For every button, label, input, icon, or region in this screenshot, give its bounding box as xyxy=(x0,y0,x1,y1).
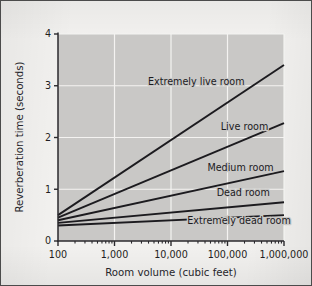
y-axis-tick-labels: 01234 xyxy=(45,28,51,246)
series-label-live-room: Live room xyxy=(221,121,268,132)
y-tick-label-0: 0 xyxy=(45,235,51,246)
series-label-extremely-live-room: Extremely live room xyxy=(148,76,245,87)
x-tick-label-100000: 100,000 xyxy=(208,249,248,260)
series-label-extremely-dead-room: Extremely dead room xyxy=(187,215,291,226)
y-tick-label-4: 4 xyxy=(45,28,51,39)
y-tick-label-2: 2 xyxy=(45,132,51,143)
x-tick-label-10000: 10,000 xyxy=(154,249,188,260)
x-axis-title: Room volume (cubic feet) xyxy=(105,267,237,278)
x-tick-label-1000000: 1,000,000 xyxy=(260,249,309,260)
y-tick-label-1: 1 xyxy=(45,184,51,195)
series-label-medium-room: Medium room xyxy=(207,162,273,173)
figure-container: 01234 1001,00010,000100,0001,000,000 Roo… xyxy=(0,0,312,286)
reverberation-time-chart: 01234 1001,00010,000100,0001,000,000 Roo… xyxy=(1,1,312,286)
y-axis-title: Reverberation time (seconds) xyxy=(14,61,25,212)
series-label-dead-room: Dead room xyxy=(217,187,270,198)
x-axis-tick-labels: 1001,00010,000100,0001,000,000 xyxy=(49,249,309,260)
y-tick-label-3: 3 xyxy=(45,80,51,91)
x-tick-label-1000: 1,000 xyxy=(101,249,128,260)
x-tick-label-100: 100 xyxy=(49,249,67,260)
